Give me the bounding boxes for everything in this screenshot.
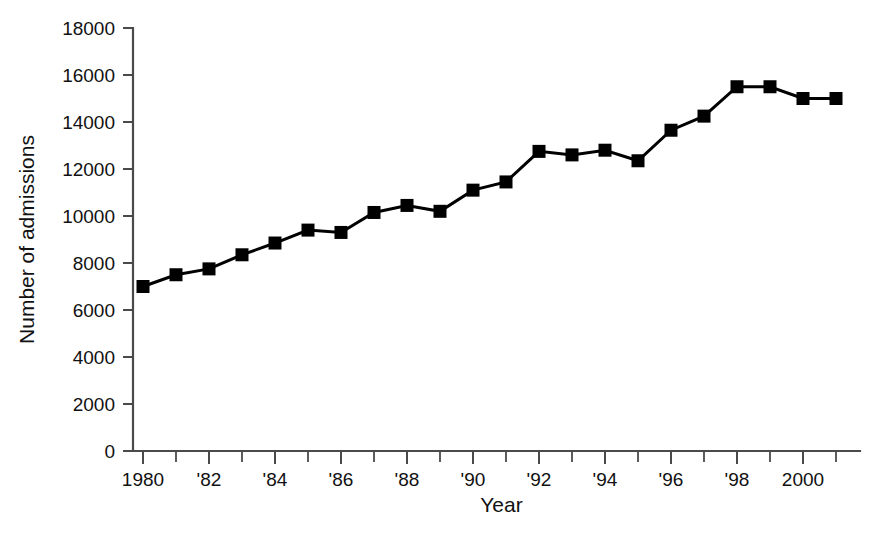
data-point-marker <box>830 92 843 105</box>
data-point-marker <box>764 80 777 93</box>
data-point-marker <box>434 205 447 218</box>
data-point-marker <box>203 262 216 275</box>
axes-layer <box>133 28 860 451</box>
x-tick-label: '92 <box>527 469 552 490</box>
y-tick-label: 6000 <box>73 300 115 321</box>
x-tick-label: '96 <box>659 469 684 490</box>
data-point-marker <box>137 280 150 293</box>
data-point-marker <box>269 237 282 250</box>
data-point-marker <box>467 184 480 197</box>
y-tick-label: 16000 <box>62 65 115 86</box>
data-point-marker <box>731 80 744 93</box>
data-point-marker <box>566 148 579 161</box>
chart-page: 0200040006000800010000120001400016000180… <box>0 0 881 535</box>
x-tick-label: '98 <box>725 469 750 490</box>
data-point-marker <box>698 110 711 123</box>
data-point-marker <box>368 206 381 219</box>
y-tick-label: 2000 <box>73 394 115 415</box>
x-tick-label: '90 <box>461 469 486 490</box>
y-axis-title: Number of admissions <box>15 135 38 344</box>
x-axis-title: Year <box>480 493 522 516</box>
data-point-marker <box>599 144 612 157</box>
y-tick-label: 12000 <box>62 159 115 180</box>
x-tick-label: 1980 <box>122 469 164 490</box>
y-tick-label: 18000 <box>62 18 115 39</box>
data-point-marker <box>665 124 678 137</box>
y-tick-label: 8000 <box>73 253 115 274</box>
data-point-marker <box>632 154 645 167</box>
data-point-marker <box>236 248 249 261</box>
x-tick-label: '82 <box>197 469 222 490</box>
y-tick-label: 10000 <box>62 206 115 227</box>
x-tick-label: '94 <box>593 469 618 490</box>
line-chart: 0200040006000800010000120001400016000180… <box>0 0 881 535</box>
x-tick-label: '88 <box>395 469 420 490</box>
data-point-marker <box>500 175 513 188</box>
tick-labels-layer: 0200040006000800010000120001400016000180… <box>62 18 824 490</box>
data-point-marker <box>797 92 810 105</box>
data-point-marker <box>335 226 348 239</box>
data-point-marker <box>533 145 546 158</box>
data-point-marker <box>170 268 183 281</box>
x-tick-label: '86 <box>329 469 354 490</box>
x-tick-label: 2000 <box>782 469 824 490</box>
y-tick-label: 4000 <box>73 347 115 368</box>
data-point-marker <box>401 199 414 212</box>
data-series-layer <box>137 80 843 293</box>
y-tick-label: 0 <box>104 441 115 462</box>
y-tick-label: 14000 <box>62 112 115 133</box>
data-point-marker <box>302 224 315 237</box>
x-tick-label: '84 <box>263 469 288 490</box>
